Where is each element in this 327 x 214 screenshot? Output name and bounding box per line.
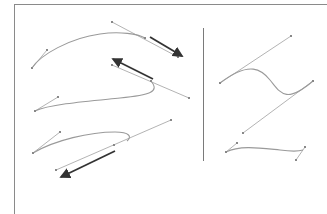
anchor-point [225,151,227,153]
anchor-point [188,97,190,99]
bezier-curve [32,33,145,68]
anchor-point [170,119,172,121]
anchor-point [219,82,221,84]
anchor-point [32,152,34,154]
bezier-curve [220,69,313,94]
s-curve [219,35,314,134]
anchor-point [312,80,314,82]
anchor-point [113,144,115,146]
bezier-curve [35,81,154,111]
anchor-point [111,64,113,66]
anchor-point [55,169,57,171]
anchor-point [34,110,36,112]
curve-3 [32,119,172,177]
anchor-point [304,146,306,148]
anchor-point [290,35,292,37]
direction-arrow-icon [113,59,153,79]
direction-arrow-icon [150,37,182,56]
anchor-point [150,80,152,82]
control-handle-line [35,97,58,111]
control-handle-line [112,22,178,57]
wave-curve [225,142,306,161]
curve-1 [31,21,182,69]
anchor-point [31,67,33,69]
anchor-point [236,142,238,144]
control-handle-line [296,147,305,160]
anchor-point [46,49,48,51]
diagram-canvas [0,0,327,214]
right-panel [219,35,314,161]
anchor-point [177,56,179,58]
left-panel [31,21,190,177]
anchor-point [242,132,244,134]
anchor-point [144,37,146,39]
curve-2 [34,59,190,112]
anchor-point [57,96,59,98]
anchor-point [111,21,113,23]
bezier-drawing [0,0,327,214]
bezier-curve [226,148,303,152]
anchor-point [295,159,297,161]
bezier-curve [33,132,129,153]
anchor-point [59,131,61,133]
